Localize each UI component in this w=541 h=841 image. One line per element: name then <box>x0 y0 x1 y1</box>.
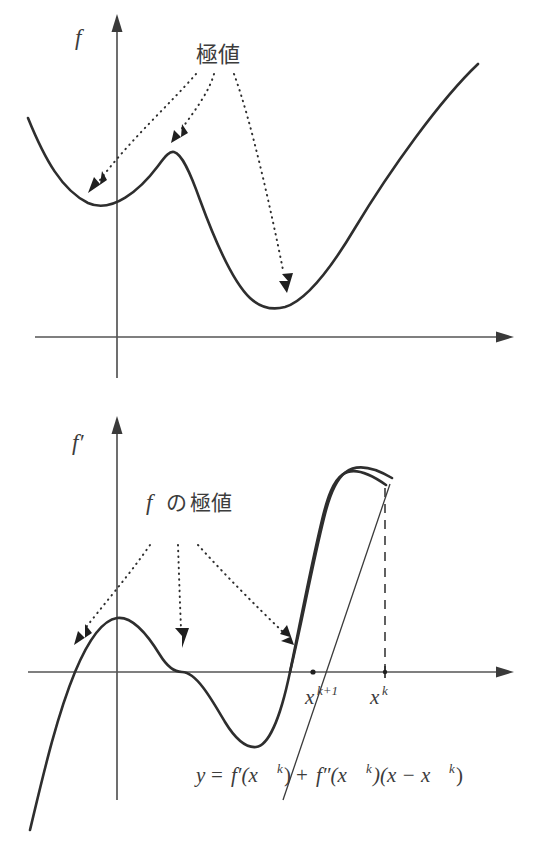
top-panel-y-axis <box>112 14 123 378</box>
bottom-panel-axis-label: f′ <box>72 430 84 455</box>
top-panel-x-axis <box>35 332 514 343</box>
bottom-panel-arrow-root-2 <box>175 545 189 648</box>
figure-root: f 極値 <box>0 0 541 841</box>
equation-term1-sup: k <box>277 761 283 776</box>
tick-label-xk-sup: k <box>382 683 388 698</box>
top-panel-arrow-right-min <box>234 74 293 293</box>
tick-label-xk-base: x <box>369 685 380 709</box>
equation-plus: + <box>296 763 308 787</box>
newton-tangent-line <box>283 484 390 800</box>
equation-lhs: y <box>194 763 206 787</box>
equation-term1-close: ) <box>284 763 291 787</box>
equation-term1-base: f′(x <box>231 763 258 787</box>
tick-label-xk-plus-1-base: x <box>304 685 315 709</box>
tick-label-xk: x k <box>369 683 388 709</box>
equation-term2-close: ) <box>456 763 463 787</box>
bottom-panel-x-axis <box>28 667 514 678</box>
math-figure-canvas: f 極値 <box>0 0 541 841</box>
newton-equation: y = f′(x k ) + f″(x k )(x − x k ) <box>194 761 463 787</box>
top-panel: f 極値 <box>28 14 514 378</box>
equation-term2-sup2: k <box>449 761 455 776</box>
equation-term2-base: f″(x <box>316 763 348 787</box>
equation-term2-mid: )(x − x <box>372 763 431 787</box>
bottom-panel-annotation-particle: の <box>166 491 187 515</box>
bottom-panel-annotation: f の 極値 <box>146 490 232 515</box>
tick-label-xk-plus-1-sup: k+1 <box>317 683 338 698</box>
equation-equals: = <box>211 763 223 787</box>
bottom-panel: f′ <box>28 416 514 830</box>
bottom-panel-y-axis <box>112 416 123 800</box>
point-xk-plus-1 <box>310 669 315 674</box>
top-panel-arrow-local-max <box>171 74 214 143</box>
curve-f-prime-upper <box>290 467 392 672</box>
equation-term2-sup: k <box>366 761 372 776</box>
top-panel-annotation-label: 極値 <box>196 42 240 67</box>
bottom-panel-annotation-prefix: f <box>146 490 156 515</box>
bottom-panel-annotation-suffix: 極値 <box>190 491 232 515</box>
tick-xk <box>383 666 387 678</box>
bottom-panel-arrow-root-3 <box>198 545 294 645</box>
top-panel-arrow-left-min <box>88 74 196 193</box>
bottom-panel-arrow-root-1 <box>74 545 150 645</box>
tick-label-xk-plus-1: x k+1 <box>304 683 338 709</box>
top-panel-axis-label: f <box>75 25 85 50</box>
